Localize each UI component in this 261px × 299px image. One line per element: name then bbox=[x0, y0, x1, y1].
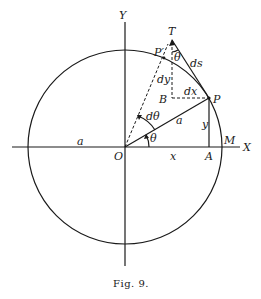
label-theta-T: θ bbox=[174, 51, 181, 64]
label-ds: ds bbox=[190, 57, 203, 70]
label-P-prime: P′ bbox=[153, 46, 164, 59]
circle-arc-length-diagram: Y T P′ θ ds dy B dx P dθ a y θ a M X O x… bbox=[0, 0, 261, 299]
label-P: P bbox=[212, 93, 221, 106]
label-M: M bbox=[223, 134, 236, 147]
label-Y: Y bbox=[119, 9, 128, 22]
label-theta-O: θ bbox=[150, 132, 157, 145]
label-A: A bbox=[204, 150, 213, 163]
label-O: O bbox=[114, 150, 123, 163]
theta-arrow-O bbox=[144, 134, 149, 139]
figure-caption: Fig. 9. bbox=[113, 278, 149, 289]
label-x: x bbox=[170, 150, 177, 163]
label-B: B bbox=[158, 93, 167, 106]
label-dtheta: dθ bbox=[146, 110, 160, 123]
label-dx: dx bbox=[184, 85, 198, 98]
label-y: y bbox=[201, 118, 209, 131]
point-P-dot bbox=[207, 96, 210, 99]
label-a-radius: a bbox=[176, 114, 183, 127]
label-a-left: a bbox=[77, 135, 84, 148]
label-T: T bbox=[168, 25, 177, 38]
label-X: X bbox=[242, 141, 252, 154]
label-dy: dy bbox=[157, 73, 171, 86]
